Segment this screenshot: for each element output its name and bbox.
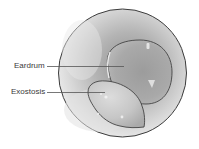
ear-canal-diagram: Eardrum Exostosis	[0, 0, 199, 149]
exostosis-label: Exostosis	[11, 87, 45, 97]
diagram-svg	[0, 0, 199, 149]
eardrum-label: Eardrum	[14, 61, 45, 71]
